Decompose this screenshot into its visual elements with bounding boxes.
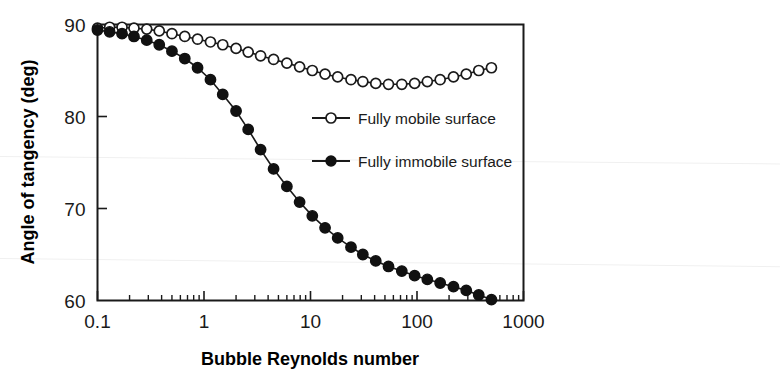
data-point-marker [231, 43, 241, 53]
data-point-marker [346, 75, 356, 85]
data-point-marker [142, 35, 152, 45]
data-point-marker [231, 106, 241, 116]
data-point-marker [435, 278, 445, 288]
x-tick-label: 1 [199, 311, 210, 332]
x-axis-ticks [98, 291, 524, 301]
data-point-marker [180, 31, 190, 41]
data-point-marker [486, 294, 496, 304]
data-point-marker [307, 66, 317, 76]
data-point-marker [167, 46, 177, 56]
x-tick-label: 0.1 [84, 311, 110, 332]
data-point-marker [192, 63, 202, 73]
data-point-marker [384, 79, 394, 89]
figure-canvas: 0.11101001000 60708090 Fully mobile surf… [0, 0, 780, 386]
data-point-marker [383, 261, 393, 271]
data-point-marker [410, 78, 420, 88]
data-point-marker [256, 51, 266, 61]
y-tick-label: 90 [64, 15, 85, 36]
x-axis-title: Bubble Reynolds number [201, 349, 419, 369]
data-point-marker [435, 75, 445, 85]
y-tick-label: 60 [64, 291, 85, 312]
data-point-marker [180, 53, 190, 63]
x-tick-label: 1000 [502, 311, 544, 332]
series-mobile [93, 22, 497, 89]
data-point-marker [142, 24, 152, 34]
data-point-marker [154, 40, 164, 50]
data-point-marker [218, 89, 228, 99]
legend-label: Fully immobile surface [358, 153, 512, 170]
data-point-marker [92, 25, 102, 35]
data-point-marker [397, 266, 407, 276]
data-point-marker [358, 249, 368, 259]
data-point-marker [358, 77, 368, 87]
data-point-marker [193, 34, 203, 44]
x-tick-label: 100 [401, 311, 433, 332]
data-point-marker [282, 58, 292, 68]
data-point-marker [104, 27, 114, 37]
data-point-marker [448, 282, 458, 292]
data-point-marker [422, 274, 432, 284]
data-point-marker [269, 54, 279, 64]
y-tick-label: 70 [64, 199, 85, 220]
legend-entry: Fully immobile surface [312, 153, 512, 170]
data-point-marker [243, 47, 253, 57]
legend-label: Fully mobile surface [358, 110, 496, 127]
y-axis-tick-labels: 60708090 [64, 15, 85, 312]
data-point-marker [474, 290, 484, 300]
x-tick-label: 10 [300, 311, 321, 332]
legend-entry: Fully mobile surface [312, 110, 496, 127]
data-point-marker [205, 75, 215, 85]
legend-marker [326, 113, 336, 123]
data-point-marker [422, 77, 432, 87]
data-point-marker [307, 211, 317, 221]
data-point-marker [409, 270, 419, 280]
data-point-marker [371, 78, 381, 88]
data-point-marker [154, 26, 164, 36]
data-point-marker [243, 124, 253, 134]
data-point-marker [205, 37, 215, 47]
data-point-marker [255, 144, 265, 154]
data-point-marker [320, 223, 330, 233]
y-tick-label: 80 [64, 107, 85, 128]
data-point-marker [486, 63, 496, 73]
data-point-marker [474, 66, 484, 76]
data-point-marker [461, 285, 471, 295]
data-point-marker [461, 69, 471, 79]
data-point-marker [282, 181, 292, 191]
data-point-marker [295, 62, 305, 72]
data-point-marker [129, 31, 139, 41]
data-point-marker [218, 40, 228, 50]
data-point-marker [268, 164, 278, 174]
data-point-marker [294, 197, 304, 207]
y-axis-ticks [98, 117, 108, 209]
data-point-marker [371, 256, 381, 266]
data-point-marker [332, 233, 342, 243]
data-point-marker [397, 79, 407, 89]
chart-legend: Fully mobile surfaceFully immobile surfa… [312, 110, 512, 170]
y-axis-title: Angle of tangency (deg) [18, 59, 38, 264]
data-point-marker [167, 29, 177, 39]
line-chart: 0.11101001000 60708090 Fully mobile surf… [0, 0, 780, 386]
data-point-marker [346, 242, 356, 252]
data-point-marker [333, 72, 343, 82]
legend-marker [326, 156, 336, 166]
x-axis-tick-labels: 0.11101001000 [84, 311, 544, 332]
data-point-marker [448, 72, 458, 82]
data-point-marker [117, 29, 127, 39]
data-point-marker [320, 69, 330, 79]
